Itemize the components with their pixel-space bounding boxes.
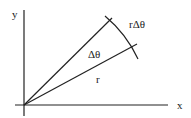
angle-label: Δθ [88,48,100,60]
polar-arc-diagram: y x rΔθ Δθ r [0,0,191,118]
y-axis-label: y [12,8,18,20]
radius-line-upper [24,18,112,105]
radius-label: r [96,73,100,85]
arc-length-label: rΔθ [129,18,145,30]
x-axis-label: x [177,99,183,111]
radius-line-lower [24,44,137,105]
